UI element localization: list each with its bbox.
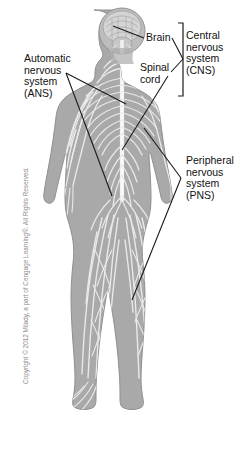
leader-brain-to-bracket	[172, 38, 183, 59]
label-spinal-cord: Spinal cord	[140, 62, 169, 85]
label-central-nervous-system: Central nervous system (CNS)	[186, 30, 223, 76]
copyright-notice: Copyright © 2012 Milady, a part of Cenga…	[22, 204, 30, 384]
nervous-system-figure: Brain Spinal cord Central nervous system…	[0, 0, 244, 464]
leader-spinal-cord	[171, 59, 183, 72]
label-brain: Brain	[146, 32, 171, 44]
label-peripheral-nervous-system: Peripheral nervous system (PNS)	[186, 155, 234, 201]
label-automatic-nervous-system: Automatic nervous system (ANS)	[24, 53, 71, 99]
